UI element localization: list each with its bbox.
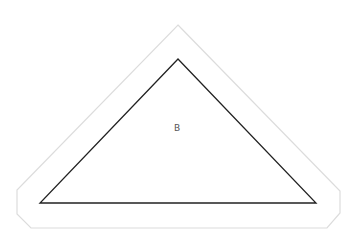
region-label: B xyxy=(174,123,180,133)
diagram-canvas: B xyxy=(0,0,361,242)
